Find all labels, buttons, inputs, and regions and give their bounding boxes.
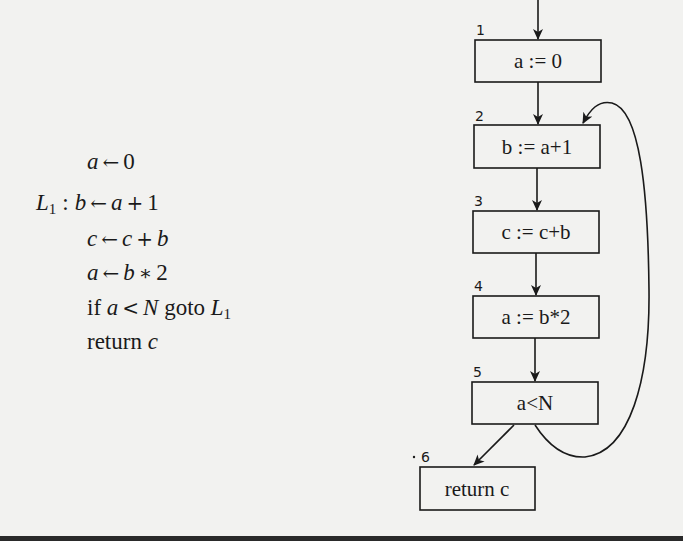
edge-5-6 (474, 425, 514, 465)
page-edge-rule (0, 536, 683, 541)
node-label: c := c+b (501, 220, 570, 244)
node-label: a := 0 (514, 49, 562, 73)
node-number: 4 (474, 278, 483, 294)
cfg-node-2: 2 b := a+1 (474, 108, 600, 168)
node-label: b := a+1 (502, 135, 572, 159)
node-label: return c (445, 477, 510, 501)
node-label: a<N (517, 391, 553, 415)
control-flow-graph: 1 a := 0 2 b := a+1 3 c := c+b 4 a := b*… (0, 0, 683, 541)
stray-dot (413, 456, 415, 458)
node-number: 2 (475, 108, 484, 124)
node-number: 5 (473, 364, 482, 380)
node-number: 1 (476, 22, 485, 38)
node-label: a := b*2 (502, 305, 571, 329)
cfg-node-6: 6 return c (413, 449, 535, 510)
node-number: 3 (474, 193, 483, 209)
cfg-node-3: 3 c := c+b (473, 193, 599, 253)
node-number: 6 (421, 449, 430, 465)
